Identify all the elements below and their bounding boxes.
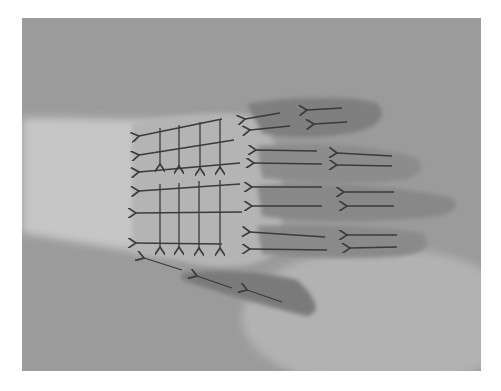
hand-photo: Grayscale photo of the back of a hand ly… <box>22 18 481 371</box>
hand-illustration <box>22 18 481 371</box>
